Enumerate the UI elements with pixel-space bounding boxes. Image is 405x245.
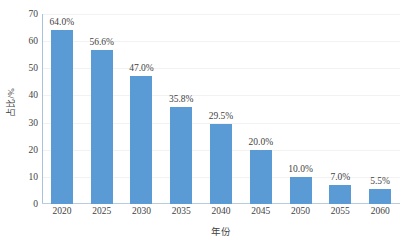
bar-value-label: 64.0% <box>50 17 75 27</box>
bar-slot: 7.0% <box>320 14 360 204</box>
bar-slot: 64.0% <box>42 14 82 204</box>
y-axis-tick: 50 <box>29 63 39 73</box>
bar-value-label: 20.0% <box>249 137 274 147</box>
bar[interactable]: 64.0% <box>51 30 73 204</box>
x-axis-tick: 2045 <box>241 206 281 222</box>
y-axis-tick: 30 <box>29 118 39 128</box>
x-axis-tick-labels: 202020252030203520402045205020552060 <box>42 206 400 222</box>
y-axis-title: 占比/% <box>2 0 18 205</box>
x-axis-tick: 2055 <box>320 206 360 222</box>
bar-value-label: 56.6% <box>89 37 114 47</box>
bar-slot: 56.6% <box>82 14 122 204</box>
bar-slot: 5.5% <box>360 14 400 204</box>
bar[interactable]: 29.5% <box>210 124 232 204</box>
bar-value-label: 29.5% <box>209 111 234 121</box>
bar[interactable]: 20.0% <box>250 150 272 204</box>
bar-value-label: 7.0% <box>330 172 350 182</box>
y-axis-tick-labels: 010203040506070 <box>18 14 38 204</box>
bar[interactable]: 47.0% <box>130 76 152 204</box>
x-axis-tick: 2040 <box>201 206 241 222</box>
y-axis-tick: 70 <box>29 9 39 19</box>
bar-series: 64.0%56.6%47.0%35.8%29.5%20.0%10.0%7.0%5… <box>42 14 400 204</box>
bar[interactable]: 56.6% <box>91 50 113 204</box>
bar-slot: 47.0% <box>122 14 162 204</box>
plot-area: 64.0%56.6%47.0%35.8%29.5%20.0%10.0%7.0%5… <box>42 14 400 204</box>
x-axis-tick: 2030 <box>122 206 162 222</box>
bar-value-label: 10.0% <box>288 164 313 174</box>
bar-chart: 占比/% 010203040506070 64.0%56.6%47.0%35.8… <box>0 0 405 245</box>
bar-value-label: 47.0% <box>129 63 154 73</box>
bar[interactable]: 35.8% <box>170 107 192 204</box>
bar-slot: 20.0% <box>241 14 281 204</box>
bar[interactable]: 5.5% <box>369 189 391 204</box>
y-axis-title-label: 占比/% <box>4 88 17 117</box>
bar-value-label: 35.8% <box>169 94 194 104</box>
x-axis-tick: 2025 <box>82 206 122 222</box>
bar-value-label: 5.5% <box>370 176 390 186</box>
y-axis-tick: 20 <box>29 145 39 155</box>
x-axis-tick: 2060 <box>360 206 400 222</box>
y-axis-tick: 40 <box>29 90 39 100</box>
bar[interactable]: 10.0% <box>290 177 312 204</box>
x-axis-tick: 2020 <box>42 206 82 222</box>
x-axis-tick: 2050 <box>281 206 321 222</box>
x-axis-tick: 2035 <box>161 206 201 222</box>
y-axis-tick: 10 <box>29 172 39 182</box>
bar-slot: 35.8% <box>161 14 201 204</box>
bar-slot: 29.5% <box>201 14 241 204</box>
y-axis-tick: 0 <box>33 199 38 209</box>
bar[interactable]: 7.0% <box>329 185 351 204</box>
y-axis-tick: 60 <box>29 36 39 46</box>
x-axis-title: 年份 <box>42 224 400 238</box>
bar-slot: 10.0% <box>281 14 321 204</box>
